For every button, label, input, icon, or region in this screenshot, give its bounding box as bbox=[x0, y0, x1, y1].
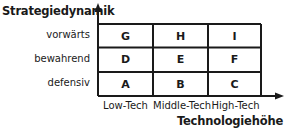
matrix-cell-B: B bbox=[154, 73, 207, 95]
matrix-cell-H: H bbox=[154, 25, 207, 47]
matrix-cell-E: E bbox=[154, 48, 207, 71]
col-label-middle-tech: Middle-Tech bbox=[153, 100, 208, 111]
matrix-cell-C: C bbox=[209, 73, 260, 95]
row-label-defensive: defensiv bbox=[0, 77, 90, 88]
matrix-cell-I: I bbox=[209, 25, 260, 47]
matrix-cell-F: F bbox=[209, 48, 260, 71]
x-axis-title: Technologiehöhe bbox=[177, 114, 283, 128]
y-axis-title: Strategiedynamik bbox=[2, 4, 115, 18]
col-label-high-tech: High-Tech bbox=[208, 100, 263, 111]
col-label-low-tech: Low-Tech bbox=[98, 100, 153, 111]
row-label-preserving: bewahrend bbox=[0, 53, 90, 64]
matrix-cell-G: G bbox=[99, 25, 152, 47]
matrix-cell-A: A bbox=[99, 73, 152, 95]
matrix-cell-D: D bbox=[99, 48, 152, 71]
row-label-forward: vorwärts bbox=[0, 29, 90, 40]
